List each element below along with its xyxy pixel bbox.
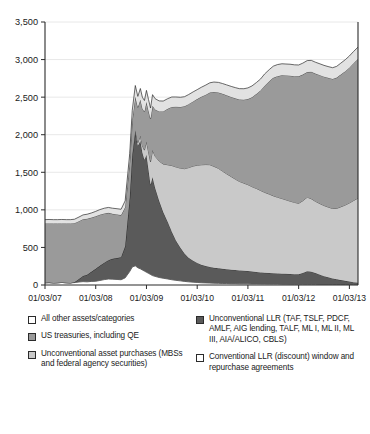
legend-item-label: US treasuries, including QE — [41, 331, 139, 341]
stacked-area-chart: 05001,0001,5002,0002,5003,0003,50001/03/… — [0, 0, 370, 310]
x-tick-label: 01/03/13 — [333, 293, 367, 303]
y-tick-label: 3,000 — [15, 55, 38, 65]
x-tick-label: 01/03/11 — [232, 293, 265, 303]
legend-item-unconventional_asset_purchases[interactable]: Unconventional asset purchases (MBSs and… — [28, 349, 188, 370]
legend-item-label: Conventional LLR (discount) window and r… — [209, 352, 364, 373]
legend-item-label: Unconventional asset purchases (MBSs and… — [41, 349, 188, 370]
legend-swatch-icon — [28, 333, 36, 341]
y-tick-label: 1,000 — [15, 205, 38, 215]
x-tick-label: 01/03/09 — [130, 293, 164, 303]
x-tick-label: 01/03/08 — [79, 293, 113, 303]
y-tick-label: 2,000 — [15, 130, 38, 140]
y-tick-label: 500 — [23, 243, 38, 253]
figure-container: 05001,0001,5002,0002,5003,0003,50001/03/… — [0, 0, 370, 434]
x-tick-label: 01/03/12 — [282, 293, 316, 303]
chart-legend: All other assets/categoriesUS treasuries… — [0, 314, 370, 434]
legend-item-us_treasuries[interactable]: US treasuries, including QE — [28, 331, 188, 341]
legend-column-left: All other assets/categoriesUS treasuries… — [28, 314, 188, 377]
y-tick-label: 3,500 — [15, 17, 38, 27]
legend-swatch-icon — [196, 316, 204, 324]
legend-item-all_other_assets[interactable]: All other assets/categories — [28, 314, 188, 324]
chart-plot-area: 05001,0001,5002,0002,5003,0003,50001/03/… — [0, 0, 370, 310]
legend-swatch-icon — [28, 316, 36, 324]
legend-column-right: Unconventional LLR (TAF, TSLF, PDCF, AML… — [196, 314, 364, 380]
legend-item-label: All other assets/categories — [41, 314, 134, 324]
legend-item-label: Unconventional LLR (TAF, TSLF, PDCF, AML… — [209, 314, 364, 345]
y-tick-label: 1,500 — [15, 168, 38, 178]
y-tick-label: 2,500 — [15, 93, 38, 103]
legend-swatch-icon — [196, 354, 204, 362]
legend-swatch-icon — [28, 351, 36, 359]
legend-item-conventional_llr[interactable]: Conventional LLR (discount) window and r… — [196, 352, 364, 373]
y-tick-label: 0 — [33, 280, 38, 290]
x-tick-label: 01/03/10 — [180, 293, 214, 303]
x-tick-label: 01/03/07 — [28, 293, 62, 303]
legend-item-unconventional_llr[interactable]: Unconventional LLR (TAF, TSLF, PDCF, AML… — [196, 314, 364, 345]
